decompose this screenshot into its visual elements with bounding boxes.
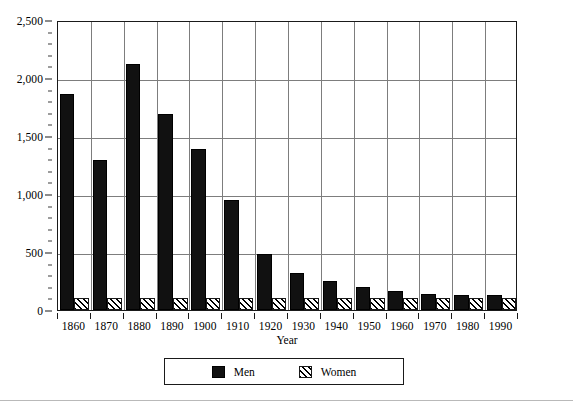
bar-women-1940 bbox=[337, 298, 352, 310]
y-axis-tick-label: 1,000 bbox=[17, 189, 43, 201]
y-axis-tick-minor bbox=[48, 113, 52, 114]
bar-men-1970 bbox=[421, 294, 436, 310]
gridline-vertical bbox=[485, 22, 486, 310]
x-axis-tick bbox=[484, 313, 485, 319]
x-axis-tick-label: 1890 bbox=[160, 320, 183, 332]
bar-men-1920 bbox=[257, 254, 272, 310]
legend-item-men: Men bbox=[212, 366, 255, 378]
bar-women-1900 bbox=[206, 298, 221, 310]
y-axis-tick-major bbox=[45, 79, 52, 80]
bar-men-1950 bbox=[356, 287, 371, 310]
y-axis-tick-minor bbox=[48, 241, 52, 242]
y-axis-tick-minor bbox=[48, 229, 52, 230]
legend-label-women: Women bbox=[321, 366, 356, 378]
x-axis: 1860187018801890190019101920193019401950… bbox=[57, 313, 517, 333]
y-axis-tick-major bbox=[45, 311, 52, 312]
bar-women-1910 bbox=[239, 298, 254, 310]
y-axis-tick-major bbox=[45, 21, 52, 22]
bar-women-1960 bbox=[403, 298, 418, 310]
chart-legend: Men Women bbox=[164, 358, 404, 385]
bar-women-1870 bbox=[107, 298, 122, 310]
y-axis-tick-minor bbox=[48, 218, 52, 219]
bar-women-1950 bbox=[370, 298, 385, 310]
gridline-vertical bbox=[354, 22, 355, 310]
y-axis-tick-label: 2,500 bbox=[17, 15, 43, 27]
x-axis-tick-label: 1900 bbox=[193, 320, 216, 332]
x-axis-tick-label: 1910 bbox=[226, 320, 249, 332]
bar-women-1970 bbox=[436, 298, 451, 310]
bar-women-1920 bbox=[272, 298, 287, 310]
gridline-vertical bbox=[288, 22, 289, 310]
y-axis-tick-minor bbox=[48, 299, 52, 300]
legend-item-women: Women bbox=[299, 366, 356, 378]
gridline-vertical bbox=[419, 22, 420, 310]
y-axis-tick-minor bbox=[48, 125, 52, 126]
x-axis-tick bbox=[320, 313, 321, 319]
y-axis-tick-label: 500 bbox=[25, 247, 43, 259]
y-axis-tick-minor bbox=[48, 206, 52, 207]
legend-swatch-women-icon bbox=[299, 366, 312, 378]
y-axis-tick-minor bbox=[48, 102, 52, 103]
bar-men-1900 bbox=[191, 149, 206, 310]
bar-men-1940 bbox=[323, 281, 338, 310]
y-axis-tick-label: 1,500 bbox=[17, 131, 43, 143]
y-axis-tick-major bbox=[45, 253, 52, 254]
y-axis-tick-minor bbox=[48, 287, 52, 288]
bar-men-1930 bbox=[290, 273, 305, 310]
bar-men-1860 bbox=[60, 94, 75, 310]
x-axis-title: Year bbox=[57, 334, 517, 346]
y-axis-tick-minor bbox=[48, 276, 52, 277]
x-axis-tick bbox=[517, 313, 518, 319]
y-axis-tick-label: 2,000 bbox=[17, 73, 43, 85]
x-axis-tick bbox=[287, 313, 288, 319]
gridline-vertical bbox=[387, 22, 388, 310]
y-axis-tick-minor bbox=[48, 264, 52, 265]
y-axis-tick-minor bbox=[48, 148, 52, 149]
bar-women-1890 bbox=[173, 298, 188, 310]
y-axis-tick-major bbox=[45, 137, 52, 138]
x-axis-tick bbox=[188, 313, 189, 319]
bar-women-1980 bbox=[469, 298, 484, 310]
gridline-vertical bbox=[321, 22, 322, 310]
y-axis-tick-minor bbox=[48, 171, 52, 172]
x-axis-tick-label: 1940 bbox=[325, 320, 348, 332]
y-axis-tick-label: 0 bbox=[37, 305, 43, 317]
legend-swatch-men-icon bbox=[212, 366, 225, 378]
x-axis-tick-label: 1860 bbox=[62, 320, 85, 332]
bar-women-1930 bbox=[304, 298, 319, 310]
x-axis-tick bbox=[221, 313, 222, 319]
y-axis-tick-minor bbox=[48, 67, 52, 68]
bar-men-1880 bbox=[126, 64, 141, 310]
x-axis-tick bbox=[451, 313, 452, 319]
y-axis-tick-minor bbox=[48, 44, 52, 45]
bar-men-1960 bbox=[388, 291, 403, 310]
bar-women-1990 bbox=[502, 298, 517, 310]
x-axis-tick-label: 1930 bbox=[292, 320, 315, 332]
y-axis-tick-minor bbox=[48, 55, 52, 56]
x-axis-tick bbox=[386, 313, 387, 319]
x-axis-tick-label: 1980 bbox=[456, 320, 479, 332]
y-axis-tick-major bbox=[45, 195, 52, 196]
x-axis-tick bbox=[254, 313, 255, 319]
x-axis-tick-label: 1870 bbox=[95, 320, 118, 332]
bar-men-1890 bbox=[158, 114, 173, 310]
x-axis-tick-label: 1990 bbox=[489, 320, 512, 332]
x-axis-tick-label: 1920 bbox=[259, 320, 282, 332]
bar-women-1860 bbox=[74, 298, 89, 310]
y-axis-tick-minor bbox=[48, 183, 52, 184]
x-axis-tick bbox=[353, 313, 354, 319]
legend-label-men: Men bbox=[234, 366, 255, 378]
bar-men-1870 bbox=[93, 160, 108, 310]
y-axis-tick-minor bbox=[48, 32, 52, 33]
x-axis-tick bbox=[57, 313, 58, 319]
x-axis-tick bbox=[90, 313, 91, 319]
x-axis-tick-label: 1880 bbox=[127, 320, 150, 332]
plot-area bbox=[57, 21, 517, 311]
y-axis-tick-minor bbox=[48, 160, 52, 161]
bar-women-1880 bbox=[140, 298, 155, 310]
x-axis-tick-label: 1970 bbox=[423, 320, 446, 332]
x-axis-tick bbox=[123, 313, 124, 319]
y-axis-tick-minor bbox=[48, 90, 52, 91]
bar-men-1990 bbox=[487, 295, 502, 310]
bar-men-1980 bbox=[454, 295, 469, 310]
